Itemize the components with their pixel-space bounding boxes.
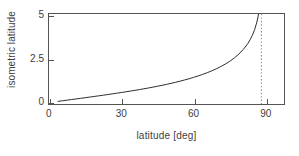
x-axis-label: latitude [deg] bbox=[48, 130, 285, 141]
x-tick-label-90: 90 bbox=[260, 108, 271, 120]
x-tick-label-30: 30 bbox=[116, 108, 127, 120]
plot-area bbox=[49, 14, 284, 104]
x-tick-label-60: 60 bbox=[188, 108, 199, 120]
x-tick-90 bbox=[267, 99, 268, 104]
x-tick-30 bbox=[122, 99, 123, 104]
y-tick-5 bbox=[49, 16, 54, 17]
y-tick-0 bbox=[49, 103, 54, 104]
y-tick-label-0: 0 bbox=[38, 97, 44, 107]
y-tick-label-5: 5 bbox=[38, 10, 44, 20]
y-axis-label: isometric latitude bbox=[6, 0, 17, 105]
x-tick-label-0: 0 bbox=[46, 108, 52, 120]
chart-figure: 0 30 60 90 0 2.5 5 latitude [deg] isomet… bbox=[0, 0, 299, 156]
y-tick-label-2point5: 2.5 bbox=[30, 54, 44, 64]
y-tick-2point5 bbox=[49, 60, 54, 61]
series-isometric-latitude bbox=[58, 14, 258, 101]
plot-frame bbox=[48, 13, 285, 105]
x-tick-60 bbox=[195, 99, 196, 104]
